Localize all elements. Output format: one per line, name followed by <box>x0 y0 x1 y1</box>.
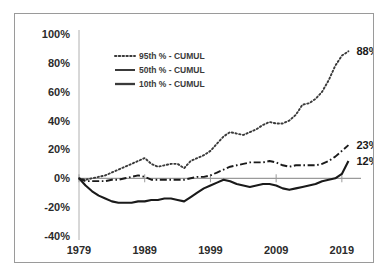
chart-frame: 100%80%60%40%20%0%-20%-40% 1979198919992… <box>14 13 374 263</box>
y-tick-label: 20% <box>48 143 70 155</box>
y-tick-label: 100% <box>42 28 70 40</box>
y-tick-label: 0% <box>54 172 70 184</box>
series-value-label: 88% <box>356 45 373 57</box>
legend-label: 95th % - CUMUL <box>139 51 205 61</box>
legend-label: 50th % - CUMUL <box>139 65 205 75</box>
y-tick-label: -20% <box>44 201 70 213</box>
y-tick-label: 80% <box>48 57 70 69</box>
x-tick-label: 1989 <box>132 244 156 256</box>
legend-label: 10th % - CUMUL <box>139 79 205 89</box>
x-tick-label: 2009 <box>264 244 288 256</box>
x-tick-label: 2019 <box>330 244 354 256</box>
y-tick-label: 40% <box>48 115 70 127</box>
series-value-label: 12% <box>356 155 373 167</box>
line-chart: 100%80%60%40%20%0%-20%-40% 1979198919992… <box>15 14 373 262</box>
series-value-label: 23% <box>356 139 373 151</box>
x-tick-label: 1999 <box>198 244 222 256</box>
y-tick-label: -40% <box>44 230 70 242</box>
chart-figure: 100%80%60%40%20%0%-20%-40% 1979198919992… <box>0 0 390 277</box>
x-tick-label: 1979 <box>67 244 91 256</box>
y-tick-label: 60% <box>48 86 70 98</box>
